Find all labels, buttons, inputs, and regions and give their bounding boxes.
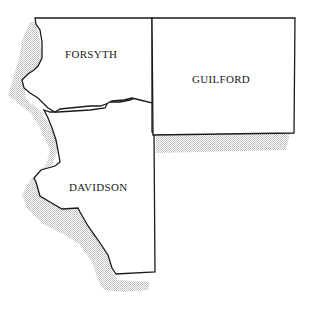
- label-forsyth: FORSYTH: [65, 48, 117, 60]
- label-guilford: GUILFORD: [192, 73, 250, 85]
- region-forsyth[interactable]: [22, 18, 152, 112]
- shadow: [156, 133, 290, 153]
- label-davidson: DAVIDSON: [69, 181, 127, 193]
- county-map: [0, 0, 314, 315]
